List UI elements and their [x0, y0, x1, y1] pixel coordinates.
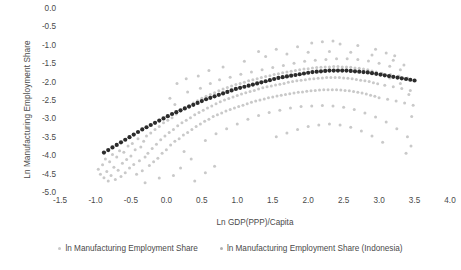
x-tick-label: 2.0 — [288, 196, 328, 205]
legend-label: ln Manufacturing Employment Share (Indon… — [227, 244, 403, 253]
legend-label: ln Manufacturing Employment Share — [65, 244, 197, 253]
scatter-chart: Ln Manufacturing Employment Share 0.0-0.… — [0, 0, 461, 270]
y-tick-label: -1.0 — [18, 40, 56, 49]
x-tick-label: -1.0 — [75, 196, 115, 205]
x-tick-label: 1.5 — [253, 196, 293, 205]
x-tick-label: 3.5 — [395, 196, 435, 205]
y-tick-label: -3.5 — [18, 132, 56, 141]
x-tick-label: -1.5 — [40, 196, 80, 205]
series-0 — [97, 40, 415, 185]
chart-legend: ln Manufacturing Employment Shareln Manu… — [0, 244, 461, 253]
y-axis-tick-labels: 0.0-0.5-1.0-1.5-2.0-2.5-3.0-3.5-4.0-4.5-… — [18, 8, 56, 192]
plot-canvas — [60, 8, 450, 192]
y-tick-label: -4.5 — [18, 169, 56, 178]
y-tick-label: -3.0 — [18, 114, 56, 123]
plot-area — [60, 8, 450, 192]
x-tick-label: -0.5 — [111, 196, 151, 205]
legend-marker-icon — [220, 247, 223, 250]
y-tick-label: -4.0 — [18, 151, 56, 160]
legend-marker-icon — [58, 247, 61, 250]
x-tick-label: 3.0 — [359, 196, 399, 205]
legend-entry-0[interactable]: ln Manufacturing Employment Share — [58, 244, 197, 253]
x-tick-label: 0.5 — [182, 196, 222, 205]
legend-entry-1[interactable]: ln Manufacturing Employment Share (Indon… — [220, 244, 403, 253]
x-tick-label: 1.0 — [217, 196, 257, 205]
x-tick-label: 2.5 — [324, 196, 364, 205]
x-tick-label: 0.0 — [146, 196, 186, 205]
y-tick-label: -1.5 — [18, 59, 56, 68]
y-tick-label: 0.0 — [18, 4, 56, 13]
x-tick-label: 4.0 — [430, 196, 461, 205]
y-tick-label: -0.5 — [18, 22, 56, 31]
x-axis-tick-labels: -1.5-1.0-0.50.00.51.01.52.02.53.03.54.0 — [60, 196, 450, 210]
y-tick-label: -2.5 — [18, 96, 56, 105]
x-axis-title: Ln GDP(PPP)/Capita — [60, 218, 450, 227]
y-tick-label: -2.0 — [18, 77, 56, 86]
